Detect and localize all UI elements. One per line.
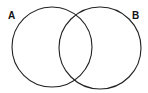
set-b-label: B xyxy=(132,11,139,21)
venn-diagram: A B xyxy=(0,0,148,93)
set-a-circle xyxy=(12,7,92,87)
set-b-circle xyxy=(59,7,141,89)
venn-diagram-svg xyxy=(0,0,148,93)
set-a-label: A xyxy=(8,11,15,21)
